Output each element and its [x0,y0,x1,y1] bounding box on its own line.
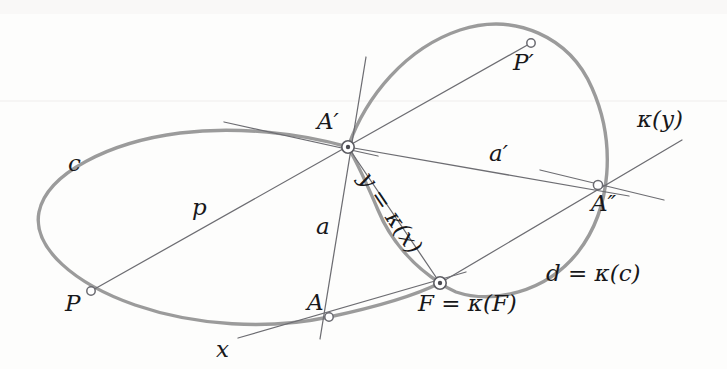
label-a: a [316,215,330,238]
label-kappa-y: κ(y) [637,108,683,131]
label-d-equals-kappa-c: d = κ(c) [546,262,641,285]
point-A-double-prime-marker [593,180,602,189]
conic-d-curve [348,24,607,296]
point-A-marker [325,313,333,321]
label-point-F: F = κ(F) [418,292,517,315]
label-point-A-prime: A′ [317,110,339,133]
label-p: p [192,196,207,219]
label-point-P: P [65,292,80,315]
label-x: x [216,338,229,361]
point-A-prime-marker [342,141,354,153]
point-F-marker [434,277,446,289]
label-point-P-prime: P′ [513,51,534,74]
conic-c-curve [38,130,440,324]
label-point-A: A [307,291,324,314]
point-P-marker [87,287,95,295]
line-a [320,57,366,339]
geometry-figure: c p a a′ x y = κ(x) κ(y) d = κ(c) P P′ A… [0,0,727,369]
label-point-A-double-prime: A″ [591,192,616,215]
point-P-prime-marker [527,39,535,47]
label-c: c [68,152,81,175]
label-a-prime: a′ [489,142,508,165]
